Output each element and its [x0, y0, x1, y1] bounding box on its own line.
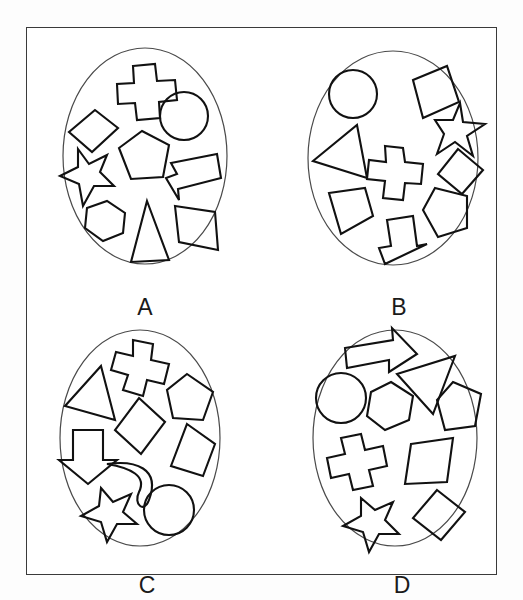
panel-b-drawing: [295, 36, 495, 286]
shape-star: [343, 498, 399, 552]
panel-c[interactable]: [45, 320, 245, 570]
shape-triangle: [397, 356, 455, 414]
panel-label-c: C: [127, 574, 167, 597]
panel-a-drawing: [45, 36, 245, 286]
shape-cross: [111, 340, 169, 396]
image-canvas: A: [0, 0, 523, 600]
shape-circle: [144, 485, 194, 535]
shape-arrow-down: [59, 430, 117, 484]
shape-hexagon: [367, 382, 413, 430]
shape-hexagon: [85, 201, 125, 241]
shape-triangle: [65, 366, 115, 420]
shape-star: [60, 149, 114, 206]
shape-pentagon: [119, 131, 169, 179]
shape-circle: [160, 92, 208, 140]
shape-cross: [117, 64, 177, 120]
panel-label-a: A: [125, 296, 165, 319]
panel-label-b: B: [379, 296, 419, 319]
shape-arrow-right: [345, 328, 417, 372]
shape-arrow-left: [166, 154, 221, 200]
panel-label-d: D: [382, 574, 422, 597]
shape-pentagon: [167, 374, 213, 420]
outer-frame: A: [26, 27, 497, 575]
shape-diamond: [438, 149, 483, 194]
shape-quadrilateral-2: [329, 188, 373, 234]
shape-circle: [316, 373, 366, 423]
shape-quadrilateral: [413, 66, 459, 118]
shape-quadrilateral: [69, 110, 118, 152]
shape-triangle: [313, 125, 367, 178]
shape-quadrilateral: [171, 424, 215, 476]
panel-b[interactable]: [295, 36, 495, 286]
shape-triangle: [131, 201, 169, 262]
shape-pentagon: [423, 188, 467, 237]
shape-cross: [327, 434, 387, 490]
shape-cross: [367, 146, 423, 200]
panel-d[interactable]: [299, 320, 499, 570]
shape-arrow-down: [379, 216, 427, 264]
panel-a[interactable]: [45, 36, 245, 286]
shape-parallelogram: [175, 206, 218, 250]
panel-d-drawing: [299, 320, 499, 570]
shape-diamond: [413, 490, 465, 540]
shape-circle: [329, 70, 377, 118]
shape-pentagon: [437, 382, 481, 430]
shape-parallelogram: [405, 438, 453, 484]
shape-star: [81, 488, 137, 542]
shape-diamond: [115, 398, 165, 454]
panel-c-drawing: [45, 320, 245, 570]
